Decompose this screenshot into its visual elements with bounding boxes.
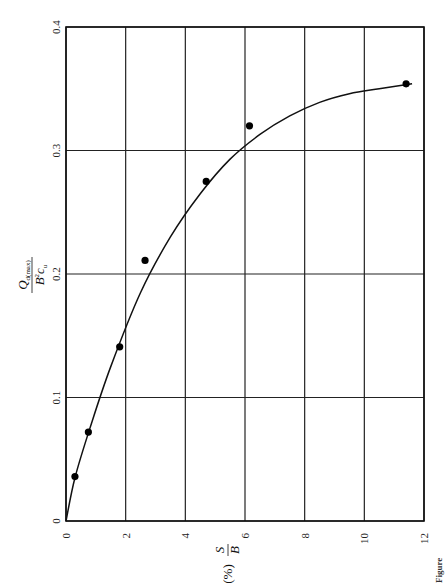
grid-lines [66, 27, 424, 521]
svg-text:B: B [227, 546, 242, 554]
x-tick-label: 2 [120, 533, 132, 539]
x-axis-label: S B (%) [212, 544, 242, 583]
y-axis-label: Qd(max) B2cu [15, 257, 49, 293]
svg-text:Qd(max): Qd(max) [15, 260, 32, 290]
y-tick-label: 0.2 [50, 267, 62, 281]
y-tick-label: 0 [50, 518, 62, 524]
svg-text:S: S [212, 546, 227, 553]
svg-text:B2cu: B2cu [32, 264, 49, 285]
y-tick-label: 0.3 [50, 143, 62, 157]
fitted-curve [66, 84, 412, 521]
x-tick-label: 10 [358, 533, 370, 545]
y-tick-label: 0.1 [50, 391, 62, 405]
x-tick-labels: 024681012 [60, 533, 430, 545]
data-point [71, 473, 78, 480]
data-point [85, 428, 92, 435]
data-point [141, 257, 148, 264]
y-tick-labels: 00.10.20.30.4 [50, 20, 62, 524]
x-tick-label: 12 [418, 533, 430, 544]
rotated-scatter-chart: 024681012 00.10.20.30.4 S B (%) Qd(max) … [0, 0, 446, 583]
y-tick-label: 0.4 [50, 20, 62, 34]
data-point [246, 122, 253, 129]
data-point [116, 343, 123, 350]
x-tick-label: 6 [239, 533, 251, 539]
x-tick-label: 0 [60, 533, 72, 539]
curve-path [66, 84, 412, 521]
svg-text:Figure: Figure [434, 558, 444, 583]
data-point [403, 80, 410, 87]
data-point [203, 178, 210, 185]
svg-text:(%): (%) [220, 564, 235, 583]
x-tick-label: 4 [179, 533, 191, 539]
figure-caption: Figure [434, 558, 444, 583]
x-tick-label: 8 [299, 533, 311, 539]
data-points [71, 80, 409, 480]
